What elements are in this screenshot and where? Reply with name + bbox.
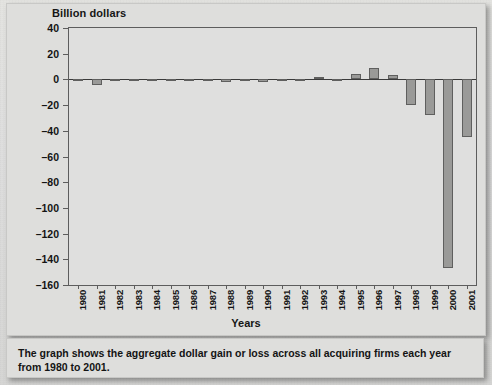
x-tick-label: 1987: [206, 290, 217, 310]
x-tick-label: 1993: [317, 290, 328, 310]
x-tick-label: 2001: [465, 290, 476, 310]
x-tick-label: 1986: [188, 290, 199, 310]
x-tick-label: 1997: [391, 290, 402, 310]
bar: [129, 79, 139, 81]
x-tick: [134, 285, 135, 289]
y-tick-label: –20: [41, 99, 59, 111]
x-tick: [282, 285, 283, 289]
x-tick-label: 1996: [373, 290, 384, 310]
bar: [258, 79, 268, 82]
x-tick-label: 1984: [151, 290, 162, 310]
x-tick-label: 1992: [299, 290, 310, 310]
x-tick: [319, 285, 320, 289]
x-tick-label: 1998: [410, 290, 421, 310]
x-tick: [448, 285, 449, 289]
bar: [295, 79, 305, 81]
bar: [425, 79, 435, 115]
bar: [462, 79, 472, 137]
x-tick-label: 1981: [95, 290, 106, 310]
x-tick: [430, 285, 431, 289]
bar: [110, 79, 120, 81]
bar: [147, 79, 157, 81]
x-tick-label: 1982: [114, 290, 125, 310]
x-tick: [337, 285, 338, 289]
bar-series: [69, 28, 476, 285]
chart-card: Billion dollars 40200–20–40–60–80–100–12…: [6, 3, 486, 336]
x-tick: [115, 285, 116, 289]
y-tick-label: –140: [36, 253, 59, 265]
x-tick-label: 2000: [447, 290, 458, 310]
x-tick-label: 1985: [169, 290, 180, 310]
bar: [369, 68, 379, 80]
bar: [184, 79, 194, 81]
x-tick: [300, 285, 301, 289]
y-tick-label: –160: [36, 279, 59, 291]
x-tick-label: 1988: [225, 290, 236, 310]
x-tick: [245, 285, 246, 289]
y-tick-label: 40: [47, 22, 59, 34]
y-tick-label: 0: [53, 73, 59, 85]
y-tick-label: –120: [36, 228, 59, 240]
bar: [240, 79, 250, 81]
x-tick-label: 1995: [354, 290, 365, 310]
bar: [203, 79, 213, 81]
x-tick: [226, 285, 227, 289]
x-tick: [208, 285, 209, 289]
x-tick: [189, 285, 190, 289]
bar: [73, 79, 83, 81]
bar: [221, 79, 231, 82]
x-tick: [97, 285, 98, 289]
x-tick: [411, 285, 412, 289]
x-axis-title: Years: [7, 317, 485, 329]
x-tick: [78, 285, 79, 289]
y-tick-label: –40: [41, 125, 59, 137]
x-tick-label: 1999: [428, 290, 439, 310]
figure-caption: The graph shows the aggregate dollar gai…: [6, 338, 484, 378]
x-tick-label: 1991: [280, 290, 291, 310]
bar: [388, 75, 398, 79]
bar: [332, 79, 342, 81]
bar: [277, 79, 287, 81]
x-tick: [467, 285, 468, 289]
bar: [351, 74, 361, 79]
bar: [314, 77, 324, 79]
x-tick-label: 1989: [243, 290, 254, 310]
y-tick-label: –80: [41, 176, 59, 188]
bar: [166, 79, 176, 81]
plot-area: 40200–20–40–60–80–100–120–140–160 198019…: [68, 27, 477, 286]
y-tick-label: 20: [47, 48, 59, 60]
bar: [406, 79, 416, 105]
x-tick: [374, 285, 375, 289]
x-tick: [152, 285, 153, 289]
x-tick-label: 1990: [262, 290, 273, 310]
x-tick: [356, 285, 357, 289]
y-axis-title: Billion dollars: [52, 7, 126, 19]
bar: [443, 79, 453, 268]
x-tick-label: 1994: [336, 290, 347, 310]
y-tick-label: –60: [41, 151, 59, 163]
x-tick: [393, 285, 394, 289]
x-tick-label: 1983: [132, 290, 143, 310]
figure-root: Billion dollars 40200–20–40–60–80–100–12…: [0, 0, 492, 385]
y-tick-label: –100: [36, 202, 59, 214]
x-tick-label: 1980: [77, 290, 88, 310]
x-tick: [263, 285, 264, 289]
bar: [92, 79, 102, 84]
y-tick: [63, 285, 69, 286]
x-tick: [171, 285, 172, 289]
